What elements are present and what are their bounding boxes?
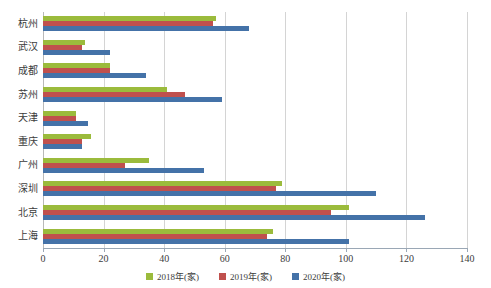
bar-天津-2020年(家) — [43, 121, 88, 126]
category-label-深圳: 深圳 — [18, 183, 38, 194]
bar-深圳-2020年(家) — [43, 191, 376, 196]
x-tick-label-140: 140 — [460, 253, 475, 264]
plot-area — [43, 12, 467, 248]
bar-group — [43, 83, 467, 107]
category-axis-labels: 杭州武汉成都苏州天津重庆广州深圳北京上海 — [0, 12, 41, 248]
bar-广州-2020年(家) — [43, 168, 204, 173]
bar-group — [43, 106, 467, 130]
tick-mark-100 — [346, 248, 347, 252]
bar-group — [43, 59, 467, 83]
bar-group — [43, 201, 467, 225]
chart-legend: 2018年(家)2019年(家)2020年(家) — [0, 270, 491, 283]
tick-mark-80 — [285, 248, 286, 252]
tick-mark-60 — [225, 248, 226, 252]
category-label-成都: 成都 — [18, 65, 38, 76]
x-tick-label-120: 120 — [399, 253, 414, 264]
legend-swatch-icon — [219, 273, 226, 280]
legend-swatch-icon — [292, 273, 299, 280]
tick-mark-40 — [164, 248, 165, 252]
category-label-武汉: 武汉 — [18, 41, 38, 52]
legend-label: 2018年(家) — [157, 270, 199, 283]
bar-group — [43, 154, 467, 178]
tick-mark-120 — [406, 248, 407, 252]
bar-成都-2020年(家) — [43, 73, 146, 78]
gridline-140 — [467, 12, 468, 248]
legend-label: 2020年(家) — [303, 270, 345, 283]
tick-mark-20 — [104, 248, 105, 252]
category-label-广州: 广州 — [18, 159, 38, 170]
bar-rows — [43, 12, 467, 248]
legend-swatch-icon — [146, 273, 153, 280]
legend-item[interactable]: 2019年(家) — [219, 270, 272, 283]
x-tick-label-20: 20 — [99, 253, 109, 264]
x-axis-tick-labels: 020406080100120140 — [0, 253, 491, 267]
bar-group — [43, 12, 467, 36]
bar-group — [43, 130, 467, 154]
bar-武汉-2020年(家) — [43, 50, 110, 55]
category-label-北京: 北京 — [18, 207, 38, 218]
bar-group — [43, 224, 467, 248]
legend-item[interactable]: 2020年(家) — [292, 270, 345, 283]
bar-北京-2020年(家) — [43, 215, 425, 220]
bar-group — [43, 36, 467, 60]
legend-item[interactable]: 2018年(家) — [146, 270, 199, 283]
x-tick-label-60: 60 — [220, 253, 230, 264]
category-label-重庆: 重庆 — [18, 136, 38, 147]
category-label-天津: 天津 — [18, 112, 38, 123]
bar-group — [43, 177, 467, 201]
bar-重庆-2020年(家) — [43, 144, 82, 149]
tick-mark-0 — [43, 248, 44, 252]
bar-苏州-2020年(家) — [43, 97, 222, 102]
bar-chart: 杭州武汉成都苏州天津重庆广州深圳北京上海 020406080100120140 … — [0, 0, 491, 288]
x-tick-label-40: 40 — [159, 253, 169, 264]
category-label-上海: 上海 — [18, 230, 38, 241]
bar-上海-2020年(家) — [43, 239, 349, 244]
x-tick-label-100: 100 — [338, 253, 353, 264]
x-tick-label-80: 80 — [280, 253, 290, 264]
tick-mark-140 — [467, 248, 468, 252]
x-tick-label-0: 0 — [41, 253, 46, 264]
category-label-苏州: 苏州 — [18, 89, 38, 100]
legend-label: 2019年(家) — [230, 270, 272, 283]
x-axis-line — [43, 248, 467, 249]
bar-杭州-2020年(家) — [43, 26, 249, 31]
category-label-杭州: 杭州 — [18, 18, 38, 29]
